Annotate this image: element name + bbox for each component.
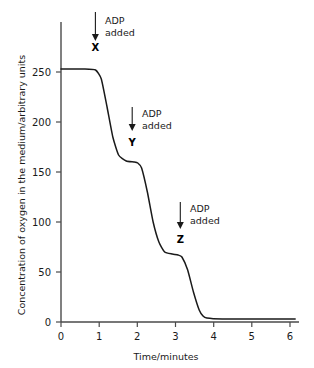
oxygen-curve: [61, 69, 295, 319]
annotation-y: ADP added Y: [128, 107, 172, 148]
annotation-z-line2: added: [190, 215, 220, 226]
chart-svg: 0 50 100 150 200 250 0 1 2 3 4 5 6 Time/…: [0, 0, 314, 368]
y-tick-label-50: 50: [38, 267, 51, 278]
x-tick-label-4: 4: [211, 331, 217, 342]
oxygen-concentration-chart: 0 50 100 150 200 250 0 1 2 3 4 5 6 Time/…: [0, 0, 314, 368]
y-tick-label-0: 0: [45, 317, 51, 328]
y-tick-label-250: 250: [32, 67, 51, 78]
annotation-y-line1: ADP: [142, 108, 162, 119]
annotation-z: ADP added Z: [177, 202, 220, 245]
x-tick-label-1: 1: [96, 331, 102, 342]
arrow-x-head: [92, 34, 99, 41]
x-tick-label-2: 2: [134, 331, 140, 342]
x-tick-label-0: 0: [58, 331, 64, 342]
x-axis-ticks: [61, 322, 290, 327]
y-tick-label-100: 100: [32, 217, 51, 228]
y-axis-ticks: [56, 72, 61, 322]
annotation-z-line1: ADP: [190, 203, 210, 214]
annotation-x-line2: added: [105, 27, 135, 38]
y-axis-title: Concentration of oxygen in the medium/ar…: [16, 55, 27, 315]
annotation-z-point-label: Z: [177, 234, 184, 245]
arrow-y-head: [129, 124, 136, 131]
annotation-x-line1: ADP: [105, 15, 125, 26]
x-axis-title: Time/minutes: [133, 351, 199, 362]
y-tick-label-150: 150: [32, 167, 51, 178]
annotation-x: ADP added X: [92, 12, 135, 53]
annotation-y-point-label: Y: [128, 137, 137, 148]
y-tick-label-200: 200: [32, 117, 51, 128]
x-tick-label-6: 6: [287, 331, 293, 342]
arrow-z-head: [177, 222, 184, 229]
x-tick-label-5: 5: [249, 331, 255, 342]
annotation-y-line2: added: [142, 120, 172, 131]
annotation-x-point-label: X: [92, 42, 100, 53]
x-tick-label-3: 3: [172, 331, 178, 342]
